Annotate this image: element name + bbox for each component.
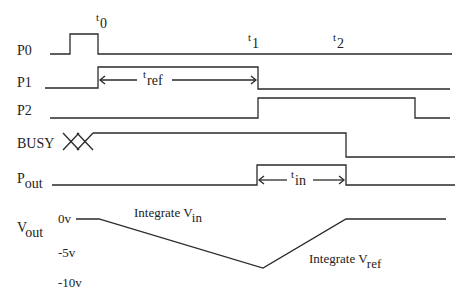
time-marker-t0: t0 [96,14,107,28]
marker-index: 2 [337,36,344,51]
p1-waveform [45,67,450,89]
marker-t: t [248,31,251,43]
vout-axis-0v: 0v [58,212,71,225]
annotation-subscript: in [192,210,202,225]
signal-label-pout: Pout [17,172,43,186]
time-marker-t1: t1 [248,34,259,48]
annotation-subscript: ref [367,256,381,271]
signal-label-p2: P2 [17,104,32,118]
p2-waveform [50,98,450,118]
annotation-text: Integrate V [309,251,367,266]
label-text: P0 [17,43,32,58]
signal-label-busy: BUSY [17,137,54,151]
label-subscript: out [25,176,43,191]
marker-t: t [96,11,99,23]
vout-axis-minus10v: -10v [58,276,82,289]
vout-axis-minus5v: -5v [58,246,75,259]
label-subscript: out [25,225,43,240]
interval-label-t-in: tin [291,171,306,185]
busy-waveform [63,133,455,157]
marker-index: 0 [100,16,107,31]
interval-t: t [291,168,294,180]
interval-label-t-ref: tref [143,71,163,85]
annotation-integrate-vref: Integrate Vref [309,252,381,265]
annotation-text: Integrate V [134,205,192,220]
interval-sub: ref [147,73,163,88]
marker-index: 1 [252,36,259,51]
signal-label-p1: P1 [17,76,32,90]
marker-t: t [333,31,336,43]
vout-waveform [76,219,446,268]
t-ref-arrow [100,76,256,84]
label-text: P2 [17,103,32,118]
pout-waveform [52,165,455,185]
label-text: P [17,171,25,186]
label-text: P1 [17,75,32,90]
signal-label-p0: P0 [17,44,32,58]
annotation-integrate-vin: Integrate Vin [134,206,202,219]
interval-sub: in [295,173,306,188]
time-marker-t2: t2 [333,34,344,48]
interval-t: t [143,68,146,80]
label-text: BUSY [17,136,54,151]
signal-label-vout: Vout [17,221,43,235]
